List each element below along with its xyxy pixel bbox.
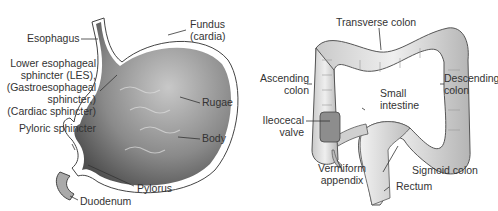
label-duodenum: Duodenum bbox=[80, 196, 131, 208]
label-sigmoid-colon: Sigmoid colon bbox=[412, 165, 478, 177]
label-ascending-colon-2: colon bbox=[284, 85, 309, 97]
label-ileocecal-valve: Ileocecal bbox=[263, 115, 304, 127]
label-rugae: Rugae bbox=[202, 97, 233, 109]
label-les-line5: (Cardiac sphincter) bbox=[7, 106, 96, 118]
label-body: Body bbox=[202, 133, 226, 145]
label-descending-colon: Descending bbox=[444, 73, 498, 85]
label-vermiform-appendix: Vermiform bbox=[306, 163, 378, 175]
label-pyloric-sphincter: Pyloric sphincter bbox=[19, 123, 96, 135]
label-les-line1: Lower esophageal bbox=[10, 58, 96, 70]
label-ileocecal-valve-2: valve bbox=[279, 127, 304, 139]
label-vermiform-appendix-2: appendix bbox=[306, 175, 378, 187]
label-fundus: Fundus bbox=[190, 19, 225, 31]
label-ascending-colon: Ascending bbox=[260, 73, 309, 85]
label-descending-colon-2: colon bbox=[444, 85, 469, 97]
label-fundus-cardia: (cardia) bbox=[190, 31, 226, 43]
label-transverse-colon: Transverse colon bbox=[336, 17, 416, 29]
label-les-line3: (Gastroesophageal bbox=[7, 82, 96, 94]
anatomy-diagram: Esophagus Fundus (cardia) Lower esophage… bbox=[0, 0, 498, 211]
label-small-intestine: Small bbox=[380, 88, 406, 100]
label-small-intestine-2: intestine bbox=[380, 100, 419, 112]
label-esophagus: Esophagus bbox=[27, 33, 80, 45]
label-rectum: Rectum bbox=[396, 181, 432, 193]
label-les-line2: sphincter (LES), bbox=[21, 70, 96, 82]
label-pylorus: Pylorus bbox=[137, 183, 172, 195]
label-les-line4: sphincter,) bbox=[48, 94, 96, 106]
